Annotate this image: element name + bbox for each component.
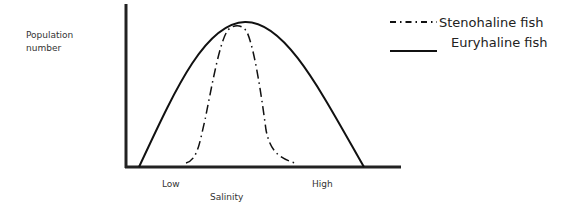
legend-eury-label: Euryhaline fish <box>451 35 548 50</box>
legend-steno-label: Stenohaline fish <box>439 15 544 30</box>
x-axis-label: Salinity <box>210 192 243 202</box>
stenohaline-curve <box>186 26 295 163</box>
x-tick-low: Low <box>162 179 180 189</box>
y-axis-label: Population number <box>26 29 86 55</box>
euryhaline-curve <box>139 22 364 167</box>
x-tick-high: High <box>312 179 333 189</box>
